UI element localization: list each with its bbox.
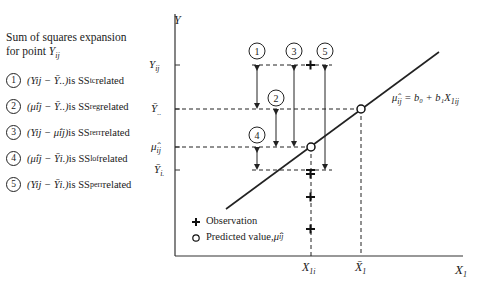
- marker-4: 4: [255, 130, 260, 141]
- y-tick-muhat: μ̂ij: [151, 140, 161, 155]
- plus-icon: [192, 218, 200, 226]
- marker-5: 5: [323, 46, 328, 57]
- y-tick-ybar: Ȳ..: [151, 102, 161, 117]
- regression-equation: μ̂ij = b₀ + b₁X1ij: [392, 92, 459, 106]
- x-tick-x1i: X1i: [302, 260, 316, 276]
- y-tick-ybar-i: Ȳi.: [154, 163, 164, 178]
- predicted-value-point: [307, 143, 315, 151]
- x-axis-label: X1: [455, 262, 467, 279]
- y-axis-label: Y: [174, 13, 181, 28]
- marker-3: 3: [292, 46, 297, 57]
- plot-area: 1 3 5 2 4: [0, 0, 487, 290]
- circle-icon: [193, 235, 199, 241]
- key-predicted: Predicted value, μ̂ij: [206, 231, 283, 242]
- mean-point: [357, 105, 365, 113]
- marker-2: 2: [274, 93, 279, 104]
- marker-1: 1: [255, 46, 260, 57]
- key-observation: Observation: [206, 215, 257, 226]
- x-tick-x1bar: X̄1: [355, 260, 366, 276]
- y-tick-yij: Yij: [149, 58, 160, 73]
